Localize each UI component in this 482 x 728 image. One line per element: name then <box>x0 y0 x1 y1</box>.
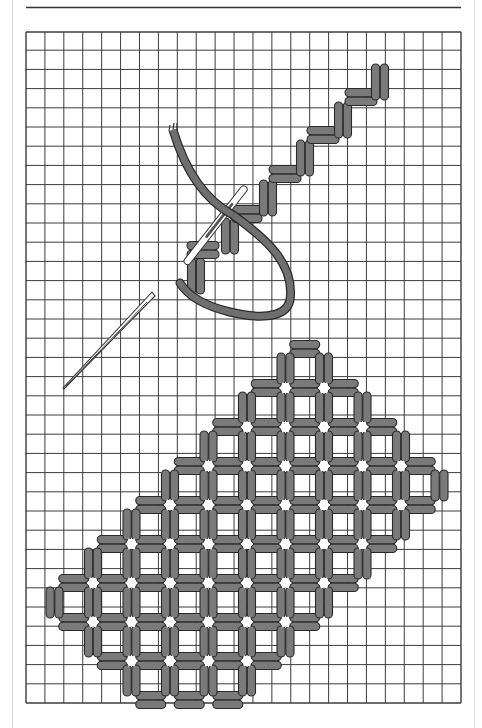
stitch <box>316 392 324 423</box>
stitch <box>324 431 332 462</box>
stitch <box>277 587 285 618</box>
lattice-stitch-pair-horizontal <box>213 419 243 436</box>
lattice-stitch-pair-horizontal <box>328 536 358 553</box>
stitch <box>268 180 276 216</box>
lattice-stitch-pair-horizontal <box>290 341 320 358</box>
lattice-stitch-pair-vertical <box>162 509 179 540</box>
stitch <box>324 470 332 501</box>
stitch <box>162 548 170 579</box>
lattice-stitch-pair-vertical <box>162 587 179 618</box>
stitch <box>200 431 208 462</box>
stitch <box>170 470 178 501</box>
stitch <box>247 548 255 579</box>
stitch <box>239 626 247 657</box>
stitch <box>286 548 294 579</box>
staircase-stitch-pair <box>222 218 239 254</box>
loose-needle-shading <box>66 302 147 386</box>
lattice-stitch-pair-horizontal <box>174 536 204 553</box>
stitch <box>316 509 324 540</box>
lattice-stitch-pair-vertical <box>239 665 256 696</box>
stitch <box>123 665 131 696</box>
stitch <box>354 431 362 462</box>
stitch <box>136 700 166 708</box>
lattice-stitch-pair-horizontal <box>290 536 320 553</box>
stitch <box>324 548 332 579</box>
lattice-stitch-pair-vertical <box>354 509 371 540</box>
lattice-stitch-pair-horizontal <box>290 575 320 592</box>
stitch <box>209 431 217 462</box>
staircase-stitches <box>187 64 389 294</box>
stitch <box>55 587 63 618</box>
lattice-stitch-pair-horizontal <box>251 575 281 592</box>
lattice-stitch-pair-horizontal <box>174 614 204 631</box>
lattice-stitch-pair-vertical <box>316 392 333 423</box>
lattice-stitch-pair-vertical <box>239 509 256 540</box>
lattice-stitch-pair-vertical <box>277 431 294 462</box>
lattice-stitch-pair-horizontal <box>213 614 243 631</box>
stitch <box>170 509 178 540</box>
lattice-stitch-pair-vertical <box>354 470 371 501</box>
stitch <box>170 548 178 579</box>
stitch <box>85 587 93 618</box>
stitch <box>372 64 380 100</box>
lattice-stitch-pair-horizontal <box>174 692 204 709</box>
stitch <box>209 548 217 579</box>
stitch <box>363 392 371 423</box>
lattice-stitch-pair-horizontal <box>290 497 320 514</box>
lattice-stitch-pair-horizontal <box>290 419 320 436</box>
stitch <box>239 470 247 501</box>
thread-tail <box>173 130 233 215</box>
lattice-stitch-pair-vertical <box>431 470 448 501</box>
stitch <box>132 665 140 696</box>
stitch <box>324 587 332 618</box>
stitch <box>247 509 255 540</box>
lattice-stitch-pair-vertical <box>239 548 256 579</box>
lattice-stitch-pair-horizontal <box>136 497 166 514</box>
stitch <box>239 431 247 462</box>
stitch <box>286 431 294 462</box>
stitch <box>305 140 313 176</box>
stitch <box>93 587 101 618</box>
stitch <box>260 180 268 216</box>
stitch <box>162 626 170 657</box>
lattice-stitch-pair-vertical <box>393 470 410 501</box>
stitch <box>431 470 439 501</box>
stitch <box>286 353 294 384</box>
lattice-stitch-pair-horizontal <box>136 575 166 592</box>
lattice-stitch-pair-horizontal <box>174 497 204 514</box>
lattice-stitch-pair-vertical <box>123 509 140 540</box>
stitch <box>380 64 388 100</box>
stitch <box>123 509 131 540</box>
lattice-stitch-pair-vertical <box>277 392 294 423</box>
stitch <box>286 626 294 657</box>
stitch <box>209 665 217 696</box>
stitch <box>363 431 371 462</box>
stitch <box>307 135 339 143</box>
lattice-stitch-pair-vertical <box>239 431 256 462</box>
stitch <box>200 470 208 501</box>
stitch <box>343 102 351 138</box>
stitch <box>286 587 294 618</box>
stitch <box>277 626 285 657</box>
lattice-stitch-pair-vertical <box>123 548 140 579</box>
lattice-stitch-pair-vertical <box>200 587 217 618</box>
stitch <box>354 470 362 501</box>
stitch <box>354 548 362 579</box>
lattice-stitch-pair-horizontal <box>367 536 397 553</box>
stitch <box>401 470 409 501</box>
stitch <box>277 470 285 501</box>
stitch <box>401 431 409 462</box>
lattice-stitch-pair-horizontal <box>290 380 320 397</box>
stitch <box>170 626 178 657</box>
lattice-stitch-pair-horizontal <box>174 458 204 475</box>
lattice-stitch-pair-vertical <box>393 509 410 540</box>
stitch <box>200 587 208 618</box>
stitch <box>123 587 131 618</box>
stitch <box>85 626 93 657</box>
lattice-stitch-pair-vertical <box>277 470 294 501</box>
stitch <box>132 509 140 540</box>
stitch <box>162 587 170 618</box>
lattice-stitch-pair-horizontal <box>97 653 127 670</box>
lattice-stitch-pair-vertical <box>85 548 102 579</box>
lattice-stitch-pair-vertical <box>277 548 294 579</box>
